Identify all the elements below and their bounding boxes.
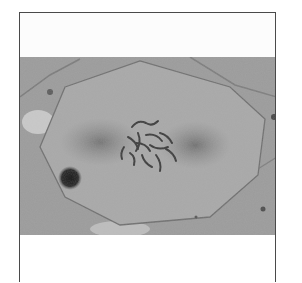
cell-micrograph-graphic — [20, 57, 275, 235]
micrograph-image — [20, 57, 275, 235]
figure-footer-area — [20, 235, 275, 283]
figure-caption-area — [20, 13, 275, 57]
figure-frame — [19, 12, 276, 282]
